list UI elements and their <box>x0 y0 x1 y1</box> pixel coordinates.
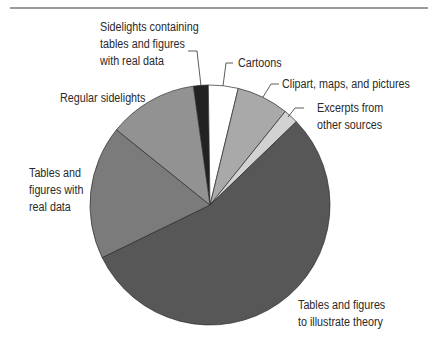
label-line: real data <box>29 199 83 216</box>
label-line: Clipart, maps, and pictures <box>282 76 410 93</box>
label-line: Regular sidelights <box>60 90 145 107</box>
label-line: Sidelights containing <box>100 19 199 36</box>
label-line: Excerpts from <box>317 100 383 117</box>
label-line: Tables and figures <box>298 297 385 314</box>
label-sidelights-real: Sidelights containing tables and figures… <box>100 19 199 70</box>
leader-clipart <box>263 84 279 97</box>
label-line: to illustrate theory <box>298 314 385 331</box>
label-line: tables and figures <box>100 36 199 53</box>
label-theory: Tables and figures to illustrate theory <box>298 297 385 331</box>
pie-slices <box>90 85 330 325</box>
leader-cartoons <box>223 63 233 86</box>
label-clipart: Clipart, maps, and pictures <box>282 76 410 93</box>
label-line: with real data <box>100 53 199 70</box>
label-cartoons: Cartoons <box>238 55 282 72</box>
label-real-data: Tables and figures with real data <box>29 165 83 216</box>
label-line: Tables and <box>29 165 83 182</box>
label-line: other sources <box>317 117 383 134</box>
label-excerpts: Excerpts from other sources <box>317 100 383 134</box>
label-regular-sidelights: Regular sidelights <box>60 90 145 107</box>
label-line: figures with <box>29 182 83 199</box>
label-line: Cartoons <box>238 55 282 72</box>
